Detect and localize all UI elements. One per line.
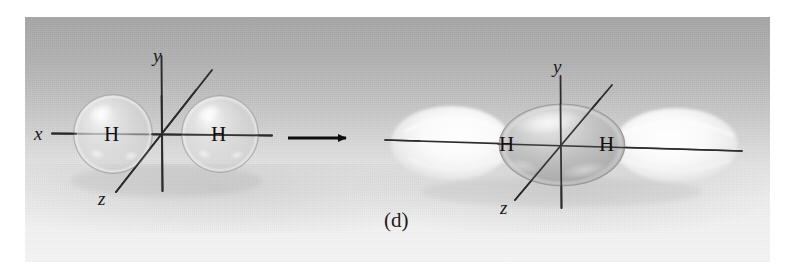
right-diagram-group xyxy=(385,76,742,208)
left-z-axis-label: z xyxy=(98,189,105,208)
right-y-axis-label: y xyxy=(553,57,561,76)
right-hydrogen-label-1: H xyxy=(499,134,514,155)
figure-caption: (d) xyxy=(384,210,409,231)
right-z-axis-label: z xyxy=(500,198,507,217)
left-hydrogen-label-2: H xyxy=(211,124,226,145)
left-x-axis-label: x xyxy=(34,124,42,143)
right-hydrogen-label-2: H xyxy=(599,134,614,155)
figure-root: x y z H H y z H H (d) xyxy=(0,0,793,277)
left-y-axis-label: y xyxy=(153,46,161,65)
left-hydrogen-label-1: H xyxy=(104,124,119,145)
left-diagram-group xyxy=(52,56,272,197)
